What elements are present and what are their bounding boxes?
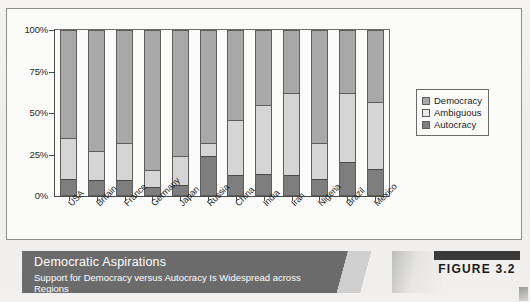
stacked-bar [227,30,244,196]
bar-segment-ambiguous [368,102,383,169]
figure-accent-decoration [519,287,528,301]
bar-segment-democracy [368,31,383,102]
bar-segment-ambiguous [312,143,327,179]
bar-segment-ambiguous [256,105,271,174]
bar-segment-ambiguous [201,143,216,156]
y-axis-tick-label: 25% [12,149,48,160]
stacked-bar [311,30,328,196]
legend-label-ambiguous: Ambiguous [434,107,482,118]
y-axis-tick-mark [49,30,54,31]
bar-segment-democracy [61,31,76,138]
figure-tag: FIGURE 3.2 [434,251,520,285]
bar-segment-autocracy [201,156,216,195]
chart-panel: 100%75%50%25%0% USABritainFranceGermanyJ… [6,8,522,240]
bar-segment-ambiguous [117,143,132,181]
stacked-bar [255,30,272,196]
figure-tag-label: FIGURE 3.2 [434,262,520,276]
stacked-bar [144,30,161,196]
bar-segment-ambiguous [340,93,355,162]
bar-segment-democracy [284,31,299,93]
figure-caption-title: Democratic Aspirations [34,255,166,269]
stacked-bar [367,30,384,196]
legend-item-democracy: Democracy [422,95,482,106]
bar-segment-democracy [201,31,216,143]
legend-swatch-democracy [422,97,430,105]
y-axis-tick-label: 75% [12,66,48,77]
stacked-bar [172,30,189,196]
stacked-bar [116,30,133,196]
bar-segment-democracy [340,31,355,93]
stacked-bar [88,30,105,196]
bar-segment-democracy [228,31,243,120]
bar-segment-autocracy [340,162,355,195]
stacked-bar [283,30,300,196]
legend-item-ambiguous: Ambiguous [422,107,482,118]
bar-segment-democracy [89,31,104,151]
y-axis-tick-label: 100% [12,24,48,35]
y-axis-tick-mark [49,113,54,114]
x-axis-labels: USABritainFranceGermanyJapanRussiaChinaI… [55,201,389,246]
chart-legend: Democracy Ambiguous Autocracy [416,89,489,136]
bar-segment-democracy [312,31,327,143]
figure-caption-subtitle: Support for Democracy versus Autocracy I… [34,272,332,294]
bar-segment-democracy [145,31,160,170]
legend-swatch-ambiguous [422,109,430,117]
y-axis-tick-label: 0% [12,190,48,201]
bar-segment-democracy [173,31,188,156]
bar-group [55,30,389,196]
stacked-bar [339,30,356,196]
bar-segment-ambiguous [145,170,160,186]
legend-label-democracy: Democracy [434,95,482,106]
stacked-bar [200,30,217,196]
plot-right-border [389,29,390,197]
legend-item-autocracy: Autocracy [422,119,482,130]
caption-wedge-decoration [332,251,392,293]
figure-tag-bar [434,251,520,260]
bar-segment-ambiguous [89,151,104,181]
legend-label-autocracy: Autocracy [434,119,476,130]
bar-segment-ambiguous [228,120,243,176]
y-axis-tick-mark [49,72,54,73]
bar-segment-democracy [117,31,132,143]
stacked-bar [60,30,77,196]
bar-segment-democracy [256,31,271,105]
legend-swatch-autocracy [422,121,430,129]
bar-segment-ambiguous [61,138,76,179]
figure-caption-bar: Democratic Aspirations Support for Democ… [22,251,332,293]
y-axis-tick-label: 50% [12,107,48,118]
bar-segment-ambiguous [284,93,299,175]
y-axis-tick-mark [49,155,54,156]
